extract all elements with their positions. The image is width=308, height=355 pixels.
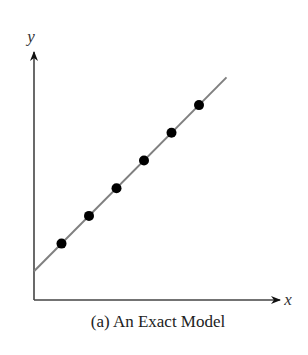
data-point [167, 128, 177, 138]
y-axis-label: y [25, 27, 35, 46]
chart-caption: (a) An Exact Model [0, 312, 308, 332]
data-point [84, 211, 94, 221]
data-point [57, 239, 67, 249]
data-point [112, 183, 122, 193]
chart-canvas: y x [0, 0, 308, 355]
data-point [194, 100, 204, 110]
plot-area [34, 77, 227, 271]
x-axis-label: x [283, 290, 292, 309]
data-point [139, 156, 149, 166]
